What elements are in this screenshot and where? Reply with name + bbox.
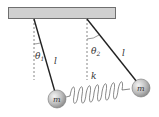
angle-arc-theta1 [34,43,40,44]
label-length-right: l [122,48,125,58]
label-theta2: θ2 [91,46,100,57]
label-mass-right: m [137,84,145,93]
angle-arc-theta2 [87,35,99,39]
label-spring-k: k [91,71,96,81]
label-mass-left: m [53,95,61,104]
label-length-left: l [54,56,57,66]
ceiling-support [9,8,116,19]
label-theta1: θ1 [35,51,44,62]
spring [66,82,130,104]
coupled-pendulum-diagram: θ1 θ2 l l k m m [0,0,159,117]
